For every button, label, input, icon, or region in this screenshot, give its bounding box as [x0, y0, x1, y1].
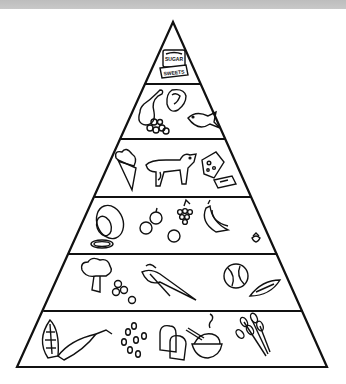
sweets-package-icon: SWEETS — [160, 65, 188, 78]
carrots-icon — [142, 264, 196, 300]
nuts-icon — [147, 119, 169, 134]
corn-husk-icon — [58, 330, 112, 360]
tier-grains — [42, 312, 270, 360]
tier-vegetables — [82, 258, 280, 303]
sugar-label: SUGAR — [165, 56, 183, 62]
cow-icon — [146, 154, 196, 186]
bananas-icon — [204, 200, 228, 232]
steak-icon — [167, 90, 186, 112]
cabbage-icon — [224, 264, 248, 288]
wheat-icon — [234, 312, 270, 356]
corn-icon — [42, 320, 58, 358]
tier-dividers — [43, 84, 303, 311]
orange-icon — [168, 230, 180, 242]
tier-fruit — [91, 200, 260, 248]
peapod-icon — [250, 280, 280, 296]
melon-icon — [92, 202, 128, 243]
tier-meat — [139, 90, 220, 134]
melon-slice-icon — [91, 240, 113, 248]
sugar-box-icon: SUGAR — [163, 50, 185, 67]
apples-icon — [140, 208, 162, 234]
strawberry-icon — [252, 233, 260, 242]
rice-bowl-icon — [186, 314, 222, 358]
butter-icon — [214, 176, 236, 188]
tier-dairy — [116, 149, 236, 190]
bread-icon — [160, 326, 186, 360]
food-pyramid-diagram: SUGAR SWEETS — [0, 0, 346, 384]
broccoli-icon — [82, 258, 112, 292]
grapes-icon — [178, 200, 193, 224]
fish-icon — [188, 112, 220, 128]
cheese-icon — [202, 152, 224, 178]
ice-cream-cone-icon — [116, 149, 136, 190]
peas-icon — [113, 281, 136, 304]
tier-sweets: SUGAR SWEETS — [160, 50, 188, 78]
beans-icon — [122, 323, 147, 357]
